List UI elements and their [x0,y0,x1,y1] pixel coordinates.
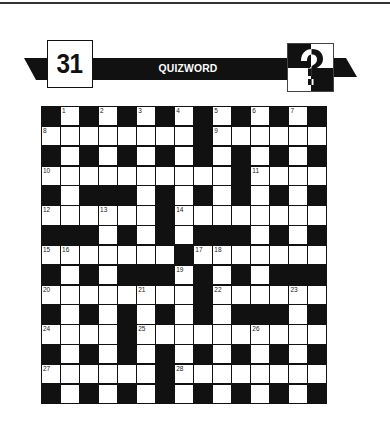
grid-cell[interactable] [99,345,117,363]
grid-cell[interactable] [213,385,231,403]
grid-cell[interactable] [232,246,250,264]
grid-cell[interactable]: 16 [61,246,79,264]
grid-cell[interactable] [61,127,79,145]
grid-cell[interactable] [251,226,269,244]
grid-cell[interactable] [137,206,155,224]
grid-cell[interactable]: 19 [175,266,193,284]
grid-cell[interactable] [175,286,193,304]
grid-cell[interactable]: 9 [213,127,231,145]
grid-cell[interactable] [289,305,307,323]
grid-cell[interactable] [137,127,155,145]
grid-cell[interactable] [175,305,193,323]
grid-cell[interactable] [80,286,98,304]
grid-cell[interactable] [118,286,136,304]
grid-cell[interactable] [175,147,193,165]
grid-cell[interactable]: 15 [42,246,60,264]
grid-cell[interactable] [99,127,117,145]
grid-cell[interactable] [232,325,250,343]
grid-cell[interactable] [175,345,193,363]
grid-cell[interactable] [251,345,269,363]
grid-cell[interactable] [194,206,212,224]
grid-cell[interactable]: 24 [42,325,60,343]
grid-cell[interactable] [137,385,155,403]
grid-cell[interactable]: 10 [42,167,60,185]
grid-cell[interactable] [118,246,136,264]
grid-cell[interactable]: 6 [251,107,269,125]
grid-cell[interactable]: 13 [99,206,117,224]
grid-cell[interactable] [232,286,250,304]
grid-cell[interactable]: 18 [213,246,231,264]
grid-cell[interactable]: 20 [42,286,60,304]
grid-cell[interactable] [80,325,98,343]
grid-cell[interactable] [99,167,117,185]
grid-cell[interactable] [175,167,193,185]
grid-cell[interactable] [118,167,136,185]
grid-cell[interactable] [308,325,326,343]
grid-cell[interactable] [175,226,193,244]
grid-cell[interactable]: 8 [42,127,60,145]
grid-cell[interactable]: 17 [194,246,212,264]
grid-cell[interactable] [80,365,98,383]
grid-cell[interactable] [118,127,136,145]
grid-cell[interactable] [175,385,193,403]
grid-cell[interactable] [61,286,79,304]
grid-cell[interactable] [99,226,117,244]
grid-cell[interactable] [270,206,288,224]
grid-cell[interactable] [99,286,117,304]
grid-cell[interactable] [308,206,326,224]
grid-cell[interactable] [213,365,231,383]
grid-cell[interactable] [289,365,307,383]
grid-cell[interactable] [213,167,231,185]
grid-cell[interactable] [156,167,174,185]
grid-cell[interactable] [137,345,155,363]
grid-cell[interactable] [194,365,212,383]
grid-cell[interactable] [251,385,269,403]
grid-cell[interactable]: 22 [213,286,231,304]
grid-cell[interactable] [118,365,136,383]
grid-cell[interactable] [80,206,98,224]
grid-cell[interactable]: 1 [61,107,79,125]
grid-cell[interactable] [137,365,155,383]
grid-cell[interactable] [213,325,231,343]
grid-cell[interactable] [251,147,269,165]
grid-cell[interactable]: 21 [137,286,155,304]
grid-cell[interactable] [61,345,79,363]
grid-cell[interactable] [99,246,117,264]
grid-cell[interactable] [118,206,136,224]
grid-cell[interactable] [213,345,231,363]
grid-cell[interactable]: 4 [175,107,193,125]
grid-cell[interactable] [156,246,174,264]
grid-cell[interactable] [270,127,288,145]
grid-cell[interactable] [99,147,117,165]
grid-cell[interactable] [213,206,231,224]
grid-cell[interactable] [156,325,174,343]
grid-cell[interactable] [270,325,288,343]
grid-cell[interactable] [270,246,288,264]
grid-cell[interactable] [194,325,212,343]
grid-cell[interactable] [270,286,288,304]
grid-cell[interactable] [61,147,79,165]
grid-cell[interactable] [213,266,231,284]
grid-cell[interactable] [137,226,155,244]
grid-cell[interactable]: 26 [251,325,269,343]
grid-cell[interactable] [232,127,250,145]
grid-cell[interactable] [270,365,288,383]
grid-cell[interactable] [137,305,155,323]
grid-cell[interactable] [61,167,79,185]
grid-cell[interactable] [99,325,117,343]
grid-cell[interactable] [251,127,269,145]
grid-cell[interactable]: 3 [137,107,155,125]
grid-cell[interactable]: 23 [289,286,307,304]
grid-cell[interactable] [289,385,307,403]
grid-cell[interactable] [156,127,174,145]
grid-cell[interactable] [289,206,307,224]
grid-cell[interactable] [308,365,326,383]
grid-cell[interactable]: 11 [251,167,269,185]
grid-cell[interactable] [289,186,307,204]
grid-cell[interactable] [213,147,231,165]
grid-cell[interactable] [251,246,269,264]
grid-cell[interactable] [175,325,193,343]
grid-cell[interactable]: 25 [137,325,155,343]
grid-cell[interactable] [156,286,174,304]
grid-cell[interactable] [61,365,79,383]
